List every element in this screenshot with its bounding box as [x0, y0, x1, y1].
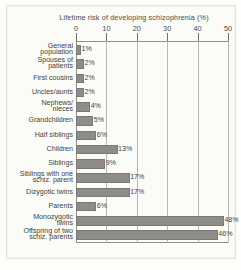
- bar-row: Grandchildren5%: [0, 115, 241, 128]
- bar-value-label: 46%: [218, 230, 232, 238]
- bar: [76, 159, 105, 169]
- category-label: Grandchildren: [0, 117, 73, 124]
- bar: [76, 88, 84, 98]
- bar-row: Siblings with one schiz. parent17%: [0, 172, 241, 185]
- bar: [76, 145, 118, 155]
- bar-value-label: 17%: [130, 188, 144, 196]
- bar: [76, 59, 84, 69]
- category-label: Dizygotic twins: [0, 189, 73, 196]
- bar-value-label: 1%: [82, 45, 92, 53]
- bar: [76, 230, 218, 240]
- category-label: Half siblings: [0, 132, 73, 139]
- bar: [76, 45, 81, 55]
- category-label: Nephews/ nieces: [0, 100, 73, 113]
- category-label: Uncles/aunts: [0, 89, 73, 96]
- category-label: Offspring of two schiz. parents: [0, 228, 73, 241]
- bar-value-label: 13%: [118, 145, 132, 153]
- x-tick-label-10: 10: [102, 24, 110, 33]
- bar-row: Uncles/aunts2%: [0, 86, 241, 99]
- x-tick-mark-0: [76, 33, 77, 41]
- x-tick-label-20: 20: [133, 24, 141, 33]
- x-tick-label-40: 40: [193, 24, 201, 33]
- bar-value-label: 5%: [94, 116, 104, 124]
- bar-row: Spouses of patients2%: [0, 58, 241, 71]
- bar-value-label: 9%: [106, 159, 116, 167]
- bar-value-label: 2%: [85, 74, 95, 82]
- bar-row: Dizygotic twins17%: [0, 186, 241, 199]
- x-tick-label-0: 0: [74, 24, 78, 33]
- bar-row: Monozygotic twins48%: [0, 215, 241, 228]
- bar-row: General population1%: [0, 44, 241, 57]
- bar-row: Nephews/ nieces4%: [0, 101, 241, 114]
- bar-row: Siblings9%: [0, 158, 241, 171]
- x-axis-top-line: [76, 41, 228, 42]
- bar: [76, 131, 96, 141]
- bar: [76, 202, 96, 212]
- schizophrenia-risk-bar-chart: Lifetime risk of developing schizophreni…: [0, 0, 241, 270]
- bar-value-label: 6%: [97, 131, 107, 139]
- bar: [76, 188, 130, 198]
- bar-value-label: 6%: [97, 202, 107, 210]
- bar-value-label: 17%: [130, 173, 144, 181]
- category-label: First cousins: [0, 75, 73, 82]
- category-label: Parents: [0, 203, 73, 210]
- x-tick-mark-40: [198, 33, 199, 41]
- bar: [76, 216, 224, 226]
- category-label: Monozygotic twins: [0, 214, 73, 227]
- bar-row: Children13%: [0, 143, 241, 156]
- bar-value-label: 2%: [85, 88, 95, 96]
- bar-row: First cousins2%: [0, 72, 241, 85]
- bar: [76, 74, 84, 84]
- x-tick-label-30: 30: [163, 24, 171, 33]
- bar-value-label: 4%: [91, 102, 101, 110]
- category-label: Siblings with one schiz. parent: [0, 171, 73, 184]
- bar-row: Offspring of two schiz. parents46%: [0, 229, 241, 242]
- x-axis-bottom-line: [76, 242, 228, 243]
- x-tick-mark-50: [228, 33, 229, 41]
- x-tick-mark-10: [106, 33, 107, 41]
- x-tick-mark-20: [137, 33, 138, 41]
- bar-row: Parents6%: [0, 200, 241, 213]
- category-label: Siblings: [0, 160, 73, 167]
- chart-title: Lifetime risk of developing schizophreni…: [36, 13, 232, 22]
- x-tick-label-50: 50: [224, 24, 232, 33]
- category-label: Children: [0, 146, 73, 153]
- bar: [76, 102, 90, 112]
- bar-value-label: 48%: [224, 216, 238, 224]
- figure-page: Lifetime risk of developing schizophreni…: [0, 0, 241, 270]
- bar-value-label: 2%: [85, 59, 95, 67]
- bar-row: Half siblings6%: [0, 129, 241, 142]
- x-tick-mark-30: [167, 33, 168, 41]
- bar: [76, 173, 130, 183]
- bar: [76, 116, 93, 126]
- category-label: Spouses of patients: [0, 57, 73, 70]
- category-label: General population: [0, 43, 73, 56]
